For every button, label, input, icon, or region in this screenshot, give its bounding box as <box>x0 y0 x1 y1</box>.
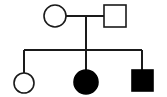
individual-male-affected-gen2[interactable] <box>132 70 153 91</box>
individual-male-unaffected-gen1[interactable] <box>104 5 126 27</box>
pedigree-chart <box>0 0 167 97</box>
individual-female-unaffected-gen1[interactable] <box>44 5 66 27</box>
pedigree-canvas <box>0 0 167 97</box>
individual-female-affected-gen2[interactable] <box>74 70 98 94</box>
individual-female-unaffected-gen2[interactable] <box>14 73 34 93</box>
